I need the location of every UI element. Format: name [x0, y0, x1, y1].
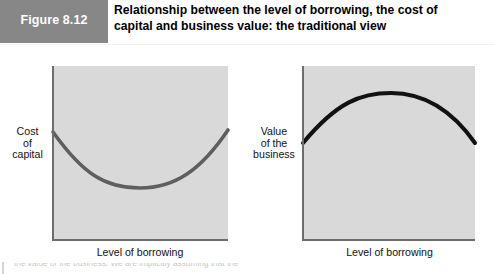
- figure-title: Relationship between the level of borrow…: [114, 3, 486, 34]
- figure-title-line-2: capital and business value: the traditio…: [114, 19, 486, 35]
- x-axis-right: [302, 239, 475, 241]
- x-axis-label-right: Level of borrowing: [303, 246, 476, 258]
- y-axis-label-right-line-1: Value: [248, 126, 300, 138]
- y-axis-right: [302, 66, 304, 241]
- figure-header: Figure 8.12 Relationship between the lev…: [0, 0, 494, 45]
- cost-of-capital-curve: [53, 66, 228, 240]
- y-axis-label-left-line-1: Cost: [4, 126, 51, 138]
- figure-number-label: Figure 8.12: [0, 13, 108, 27]
- x-axis-label-left: Level of borrowing: [52, 246, 228, 258]
- caption-clipped-text: the value of the business. We are implic…: [14, 263, 484, 268]
- y-axis-label-left-line-3: capital: [4, 149, 51, 161]
- business-value-curve: [303, 66, 475, 240]
- figure-title-line-1: Relationship between the level of borrow…: [114, 3, 486, 19]
- chart-cost-of-capital: Cost of capital Level of borrowing: [0, 45, 247, 263]
- y-axis-label-right-line-3: business: [248, 149, 300, 161]
- caption-strip: the value of the business. We are implic…: [0, 263, 494, 274]
- y-axis-label-right: Value of the business: [248, 126, 300, 161]
- x-axis-left: [52, 239, 228, 241]
- figure-body: Cost of capital Level of borrowing Value…: [0, 45, 494, 263]
- y-axis-label-left: Cost of capital: [4, 126, 51, 161]
- figure-page: Figure 8.12 Relationship between the lev…: [0, 0, 494, 274]
- y-axis-left: [52, 66, 54, 241]
- chart-business-value: Value of the business Level of borrowing: [247, 45, 494, 263]
- figure-number-tab: Figure 8.12: [0, 0, 108, 43]
